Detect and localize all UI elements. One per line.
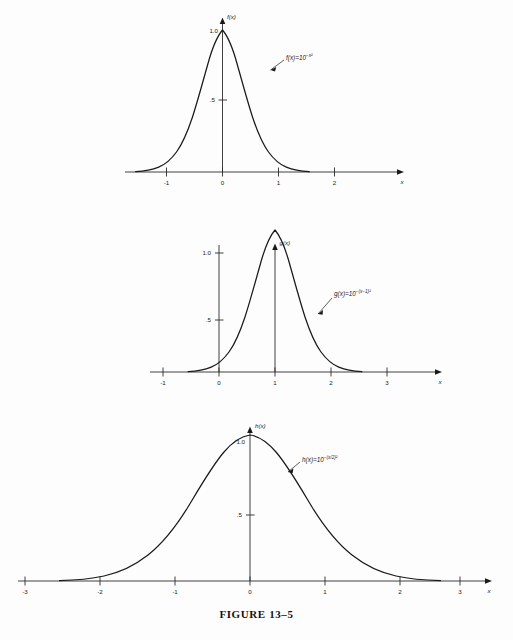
chart-g-y-axis: .5 1.0 [202,245,223,372]
chart-h-formula-base: h(x)=10 [302,456,324,464]
chart-g-xtick--1: -1 [160,379,166,386]
chart-h-ytick-half: .5 [237,511,243,518]
chart-h-svg: -3 -2 -1 0 1 2 3 x .5 1.0 h(x) [0,405,513,600]
chart-f-xtick-2: 2 [333,179,337,186]
chart-g-ytick-half: .5 [206,316,212,323]
chart-f-y-axis: .5 1.0 f(x) [209,13,236,172]
chart-f-xtick--1: -1 [164,179,170,186]
chart-f-xtick-0: 0 [221,179,225,186]
figure-page: -1 0 1 2 x .5 1.0 f(x) [0,0,513,640]
chart-g-xtick-0: 0 [217,379,221,386]
chart-g-annotation: g(x)=10−(x−1)² [318,289,371,315]
chart-f-container: -1 0 1 2 x .5 1.0 f(x) [0,0,513,200]
chart-g-xtick-2: 2 [329,379,333,386]
figure-caption: FIGURE 13–5 [0,608,513,620]
chart-f-ytick-half: .5 [210,96,216,103]
chart-f-ylabel: f(x) [227,13,236,20]
svg-text:h(x)=10−(x/2)²: h(x)=10−(x/2)² [302,455,338,464]
chart-h-xtick-2: 2 [398,588,402,595]
chart-g-formula-base: g(x)=10 [334,290,356,298]
svg-text:g(x)=10−(x−1)²: g(x)=10−(x−1)² [334,289,371,298]
chart-f-formula-exponent: −x² [306,53,313,58]
chart-g-svg: -1 0 1 2 3 x .5 1.0 g(x) [0,200,513,405]
chart-g-container: -1 0 1 2 3 x .5 1.0 g(x) [0,200,513,405]
chart-g-formula-exponent: −(x−1)² [356,289,371,294]
chart-g-xlabel: x [437,378,442,385]
chart-f-annotation: f(x)=10−x² [271,53,314,72]
svg-text:f(x)=10−x²: f(x)=10−x² [286,53,313,62]
chart-f-ytick-one: 1.0 [209,27,218,34]
chart-h-container: -3 -2 -1 0 1 2 3 x .5 1.0 h(x) [0,405,513,600]
chart-f-svg: -1 0 1 2 x .5 1.0 f(x) [0,0,513,200]
chart-g-xtick-3: 3 [385,379,389,386]
chart-h-formula-exponent: −(x/2)² [324,455,338,460]
chart-h-xlabel: x [486,587,491,594]
chart-h-annotation: h(x)=10−(x/2)² [288,455,338,474]
chart-g-xtick-1: 1 [273,379,277,386]
chart-f-formula-base: f(x)=10 [286,54,307,62]
chart-h-xtick-1: 1 [323,588,327,595]
chart-f-xlabel: x [399,178,404,185]
chart-g-x-axis: -1 0 1 2 3 x [150,368,442,387]
chart-h-ylabel: h(x) [255,422,266,429]
chart-g-peak-line: g(x) [272,239,290,372]
chart-h-xtick--1: -1 [172,588,178,595]
chart-f-xtick-1: 1 [277,179,281,186]
chart-h-y-axis: .5 1.0 h(x) [236,422,265,581]
chart-f-x-axis: -1 0 1 2 x [125,168,404,187]
chart-h-xtick-0: 0 [248,588,252,595]
chart-g-ytick-one: 1.0 [202,249,211,256]
chart-h-xtick--3: -3 [22,588,28,595]
chart-h-xtick--2: -2 [97,588,103,595]
chart-h-xtick-3: 3 [458,588,462,595]
